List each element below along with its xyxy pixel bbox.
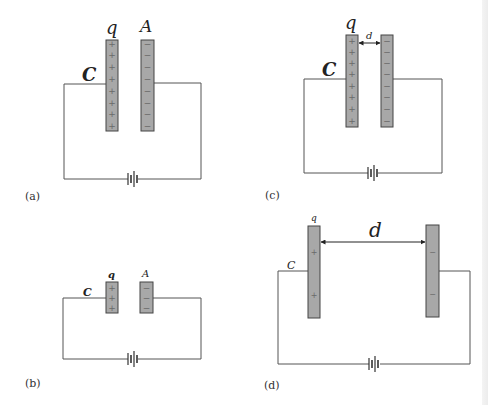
- positive-sign: +: [108, 109, 116, 119]
- negative-sign: −: [143, 293, 151, 303]
- panel-b: + + + − − − C q A (b): [25, 268, 201, 390]
- page-edge: [482, 0, 488, 405]
- negative-sign: −: [383, 116, 391, 126]
- positive-sign: +: [108, 98, 116, 108]
- charge-label: q: [106, 17, 118, 38]
- circuit-wire: [278, 271, 470, 364]
- negative-sign: −: [144, 86, 152, 96]
- negative-sign: −: [144, 39, 152, 49]
- panel-a: + + + + + + + + − − − − − − − − C q A (a…: [25, 16, 201, 203]
- negative-sign: −: [144, 121, 152, 131]
- negative-sign: −: [143, 283, 151, 293]
- positive-sign: +: [108, 62, 116, 72]
- negative-sign: −: [383, 104, 391, 114]
- capacitance-label: C: [82, 64, 97, 85]
- panel-d: + + − − d C q (d): [264, 213, 470, 392]
- capacitor-figure: + + + + + + + + − − − − − − − − C q A (a…: [0, 0, 488, 405]
- positive-sign: +: [348, 81, 356, 91]
- charge-label: q: [345, 12, 357, 33]
- positive-plate: [308, 226, 320, 318]
- capacitance-label: C: [287, 259, 296, 272]
- negative-plate: [426, 225, 439, 317]
- negative-sign: −: [143, 303, 151, 313]
- negative-sign: −: [383, 47, 391, 57]
- positive-sign: +: [348, 116, 356, 126]
- circuit-wire: [63, 298, 201, 359]
- area-label: A: [141, 268, 149, 279]
- positive-sign: +: [108, 50, 116, 60]
- separation-label: d: [369, 218, 382, 242]
- panel-label: (a): [25, 190, 40, 203]
- negative-sign: −: [144, 74, 152, 84]
- negative-sign: −: [383, 36, 391, 46]
- negative-sign: −: [429, 290, 436, 299]
- circuit-wire: [64, 83, 201, 179]
- positive-sign: +: [108, 86, 116, 96]
- capacitance-label: C: [322, 59, 337, 80]
- positive-sign: +: [348, 58, 356, 68]
- negative-sign: −: [429, 248, 436, 257]
- positive-sign: +: [348, 36, 356, 46]
- battery-icon: [368, 165, 377, 181]
- negative-sign: −: [144, 62, 152, 72]
- positive-sign: +: [348, 104, 356, 114]
- negative-sign: −: [383, 69, 391, 79]
- positive-sign: +: [108, 293, 116, 303]
- area-label: A: [138, 16, 152, 36]
- positive-sign: +: [348, 47, 356, 57]
- negative-sign: −: [144, 50, 152, 60]
- positive-sign: +: [108, 303, 116, 313]
- negative-sign: −: [383, 92, 391, 102]
- positive-sign: +: [108, 39, 116, 49]
- positive-sign: +: [108, 74, 116, 84]
- negative-sign: −: [383, 81, 391, 91]
- negative-sign: −: [383, 58, 391, 68]
- battery-icon: [128, 351, 137, 367]
- circuit-wire: [304, 79, 442, 173]
- panel-label: (d): [264, 379, 280, 392]
- positive-sign: +: [311, 248, 318, 257]
- positive-sign: +: [108, 283, 116, 293]
- positive-sign: +: [348, 69, 356, 79]
- charge-label: q: [311, 213, 317, 223]
- positive-sign: +: [108, 121, 116, 131]
- positive-sign: +: [311, 291, 318, 300]
- negative-sign: −: [144, 98, 152, 108]
- capacitance-label: C: [83, 286, 92, 299]
- charge-label: q: [108, 269, 115, 280]
- positive-sign: +: [348, 92, 356, 102]
- panel-label: (c): [265, 189, 280, 202]
- battery-icon: [369, 356, 378, 372]
- panel-c: + + + + + + + + − − − − − − − − d C q (c…: [265, 12, 442, 202]
- separation-label: d: [366, 30, 372, 41]
- panel-label: (b): [25, 377, 41, 390]
- negative-sign: −: [144, 109, 152, 119]
- battery-icon: [128, 171, 137, 187]
